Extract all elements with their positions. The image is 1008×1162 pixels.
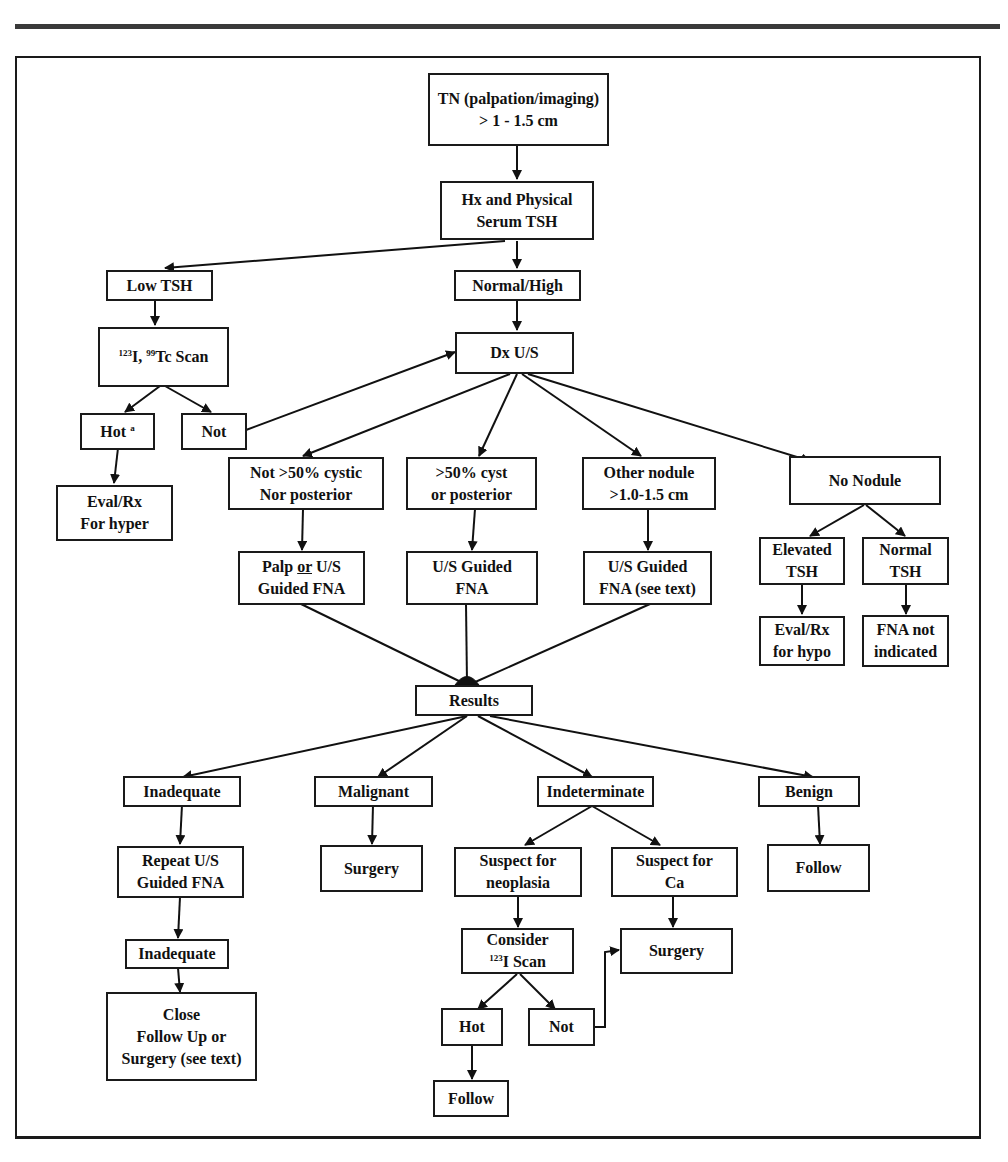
node-eval-hypo: Eval/Rx for hypo — [759, 616, 845, 666]
node-normal-tsh: Normal TSH — [862, 537, 949, 585]
node-normal-high: Normal/High — [454, 270, 581, 301]
node-malignant: Malignant — [314, 776, 433, 807]
node-no-nodule: No Nodule — [789, 456, 941, 505]
node-fna-not-indicated: FNA not indicated — [862, 615, 949, 667]
node-surgery-malignant: Surgery — [320, 845, 423, 892]
node-consider-i123-scan: Consider123I Scan — [461, 928, 574, 974]
node-benign: Benign — [758, 776, 860, 807]
node-close-follow-up: Close Follow Up or Surgery (see text) — [106, 992, 257, 1081]
footnote-marker: a — [130, 422, 135, 432]
node-not-scan: Not — [528, 1008, 595, 1046]
node-low-tsh: Low TSH — [106, 270, 213, 301]
node-us-guided-fna: U/S Guided FNA — [406, 551, 538, 605]
node-results: Results — [415, 685, 533, 716]
node-inadequate: Inadequate — [123, 776, 241, 807]
node-hot-footnote: Hot a — [80, 413, 155, 450]
node-follow-hot: Follow — [433, 1080, 509, 1117]
node-suspect-neoplasia: Suspect for neoplasia — [454, 847, 582, 897]
node-history-physical-tsh: Hx and Physical Serum TSH — [440, 181, 594, 240]
node-not-cystic: Not >50% cystic Nor posterior — [228, 457, 384, 510]
node-not-hot: Not — [181, 413, 247, 450]
node-follow-benign: Follow — [767, 844, 870, 892]
isotope-superscript: 123 — [119, 348, 133, 358]
node-us-guided-fna-see-text: U/S Guided FNA (see text) — [583, 551, 712, 605]
node-cyst-posterior: >50% cyst or posterior — [406, 457, 537, 510]
node-thyroid-nodule: TN (palpation/imaging) > 1 - 1.5 cm — [428, 73, 609, 146]
node-palp-or-us-fna: Palp or U/S Guided FNA — [238, 551, 365, 605]
node-eval-hyper: Eval/Rx For hyper — [56, 485, 173, 541]
node-hot-scan: Hot — [441, 1008, 503, 1046]
node-diagnostic-ultrasound: Dx U/S — [455, 332, 574, 374]
node-radionuclide-scan: 123I, 99Tc Scan — [98, 327, 229, 387]
node-elevated-tsh: Elevated TSH — [759, 537, 845, 585]
isotope-superscript: 123 — [489, 953, 503, 963]
node-suspect-ca: Suspect for Ca — [611, 847, 738, 897]
node-other-nodule: Other nodule >1.0-1.5 cm — [582, 457, 716, 510]
node-surgery-suspect-ca: Surgery — [620, 928, 733, 974]
node-indeterminate: Indeterminate — [537, 776, 654, 807]
node-repeat-fna: Repeat U/S Guided FNA — [117, 846, 244, 898]
isotope-superscript: 99 — [146, 348, 155, 358]
node-inadequate-repeat: Inadequate — [125, 939, 229, 969]
